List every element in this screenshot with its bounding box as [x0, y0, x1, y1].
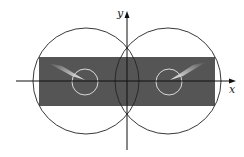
- y-axis-label: y: [116, 7, 124, 20]
- diagram-figure: x y: [0, 0, 244, 157]
- x-axis-label: x: [229, 83, 236, 96]
- y-axis-arrow-icon: [125, 11, 130, 18]
- coordinate-plane: x y: [0, 0, 244, 157]
